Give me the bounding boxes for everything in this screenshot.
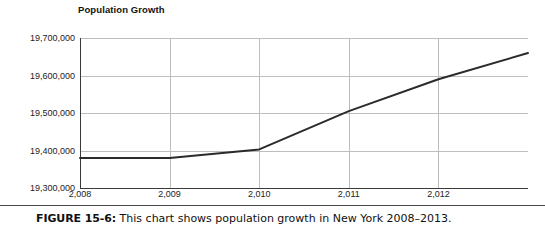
data-series-line bbox=[80, 53, 528, 158]
line-chart-svg bbox=[0, 0, 545, 205]
y-tick-label: 19,600,000 bbox=[3, 71, 75, 81]
x-tick-label: 2,011 bbox=[338, 189, 360, 199]
y-tick-label: 19,500,000 bbox=[3, 108, 75, 118]
y-tick-label: 19,700,000 bbox=[3, 33, 75, 43]
chart-plot-area bbox=[0, 0, 545, 205]
x-tick-label: 2,012 bbox=[427, 189, 450, 199]
figure-caption-label: FIGURE 15-6: bbox=[36, 212, 116, 225]
x-axis-tick-labels: 2,0082,0092,0102,0112,012 bbox=[0, 189, 545, 205]
figure-caption-text: This chart shows population growth in Ne… bbox=[116, 212, 451, 225]
figure-container: Population Growth 19,700,00019,600,00019… bbox=[0, 0, 545, 237]
x-tick-label: 2,008 bbox=[69, 189, 92, 199]
y-axis-tick-labels: 19,700,00019,600,00019,500,00019,400,000… bbox=[0, 0, 75, 205]
y-tick-label: 19,400,000 bbox=[3, 146, 75, 156]
x-tick-label: 2,010 bbox=[248, 189, 271, 199]
figure-caption: FIGURE 15-6: This chart shows population… bbox=[36, 211, 452, 226]
horizontal-gridlines bbox=[80, 39, 528, 189]
caption-divider bbox=[0, 205, 545, 206]
x-tick-label: 2,009 bbox=[158, 189, 181, 199]
